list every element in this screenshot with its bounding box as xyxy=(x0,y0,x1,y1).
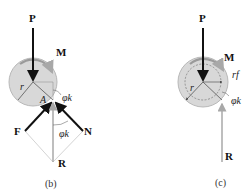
diagram-canvas: P M r A φk F φk N R (b) P M r rf φk R ( xyxy=(0,0,251,196)
label-r: r xyxy=(190,82,194,93)
panel-b: P M r A φk F φk N R (b) xyxy=(9,12,92,190)
label-phi-k-upper: φk xyxy=(62,92,73,103)
label-R: R xyxy=(58,157,67,169)
caption-c: (c) xyxy=(215,177,226,189)
label-P: P xyxy=(29,12,36,24)
normal-arrow-N xyxy=(56,103,83,131)
angle-arc-lower xyxy=(53,121,68,125)
label-M: M xyxy=(56,46,67,58)
friction-arrow-F xyxy=(25,103,51,131)
label-phi-k-lower: φk xyxy=(59,128,70,139)
panel-c: P M r rf φk R (c) xyxy=(178,12,242,189)
label-r: r xyxy=(20,81,24,92)
label-N: N xyxy=(84,125,92,137)
label-M: M xyxy=(224,51,235,63)
label-phi-k: φk xyxy=(231,95,242,106)
force-parallelogram xyxy=(25,131,83,162)
label-F: F xyxy=(14,125,21,137)
label-P: P xyxy=(199,12,206,24)
caption-b: (b) xyxy=(45,178,57,190)
label-rf: rf xyxy=(232,69,240,80)
label-A: A xyxy=(39,94,47,105)
label-R: R xyxy=(225,150,234,162)
